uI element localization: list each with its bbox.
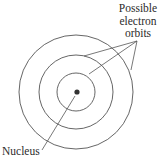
nucleus-label: Nucleus	[2, 145, 40, 158]
orbits-label-line-2: electron	[110, 15, 166, 28]
orbits-label-line-3: orbits	[110, 27, 166, 40]
nucleus-dot	[74, 89, 79, 94]
pointer-line-outer-orbit	[131, 41, 137, 70]
pointer-line-inner-orbit	[89, 41, 137, 74]
pointer-line-middle-orbit	[84, 41, 137, 56]
orbits-label: Possible electron orbits	[110, 2, 166, 40]
pointer-line-nucleus	[42, 96, 75, 150]
orbits-label-line-1: Possible	[110, 2, 166, 15]
